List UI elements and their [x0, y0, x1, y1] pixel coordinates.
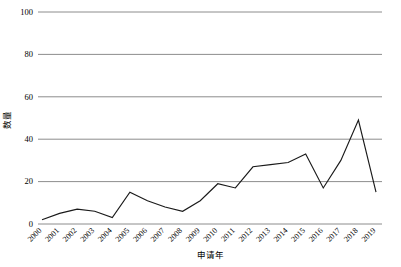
x-tick-label: 2017: [325, 226, 343, 244]
y-tick-label: 60: [25, 92, 34, 102]
y-axis-title-text: 数量: [2, 111, 12, 129]
x-tick-label: 2019: [360, 226, 378, 244]
y-tick-label: 20: [25, 176, 34, 186]
x-tick-label: 2003: [78, 226, 96, 244]
y-tick-label: 100: [20, 7, 33, 17]
y-tick-label: 80: [25, 49, 34, 59]
x-tick-label: 2016: [307, 226, 325, 244]
y-tick-label: 40: [25, 134, 34, 144]
line-chart: 数量 100 80 60 40 20 0 2000200120022003200…: [0, 0, 401, 267]
x-axis-title: 申请年: [197, 250, 224, 260]
x-tick-label: 2001: [43, 226, 61, 244]
x-tick-label: 2011: [219, 226, 236, 243]
x-tick-label: 2007: [149, 226, 167, 244]
x-tick-label: 2008: [166, 226, 184, 244]
x-tick-label: 2013: [254, 226, 272, 244]
x-tick-label: 2002: [61, 226, 79, 244]
chart-canvas: 数量 100 80 60 40 20 0 2000200120022003200…: [0, 0, 401, 267]
x-axis-ticks: 2000200120022003200420052006200720082009…: [26, 226, 378, 244]
x-tick-label: 2015: [289, 226, 307, 244]
y-axis-title: 数量: [2, 111, 12, 129]
data-series-line: [42, 120, 376, 220]
x-tick-label: 2005: [114, 226, 132, 244]
x-tick-label: 2014: [272, 226, 290, 244]
x-tick-label: 2018: [342, 226, 360, 244]
y-axis-ticks: 100 80 60 40 20 0: [20, 7, 382, 229]
y-tick-label: 0: [29, 219, 33, 229]
x-tick-label: 2010: [202, 226, 220, 244]
x-tick-label: 2012: [237, 226, 255, 244]
x-tick-label: 2006: [131, 226, 149, 244]
x-tick-label: 2009: [184, 226, 202, 244]
x-tick-label: 2004: [96, 226, 114, 244]
